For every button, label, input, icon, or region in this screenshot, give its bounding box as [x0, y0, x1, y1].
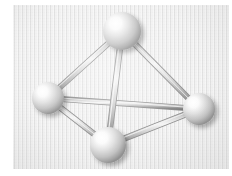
margin-left: [0, 0, 13, 176]
atom-bottom: [90, 127, 126, 163]
margin-bottom: [0, 169, 232, 176]
atom-right: [183, 93, 215, 125]
model-panel: [13, 5, 229, 169]
atom-top: [103, 12, 141, 50]
figure-root: [0, 0, 232, 176]
bond-left-right: [47, 97, 199, 109]
margin-top: [0, 0, 232, 5]
atom-left: [32, 82, 64, 114]
molecule-diagram: [13, 5, 229, 169]
margin-right: [229, 0, 232, 176]
